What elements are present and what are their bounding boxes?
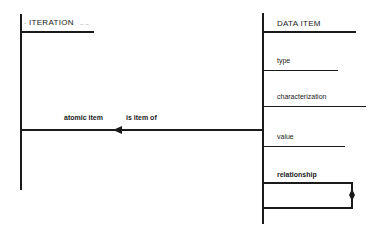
role-is-item-of-label: is item of [126,114,157,121]
connector-graphics [0,0,383,236]
role-atomic-item-label: atomic item [64,114,103,121]
arrowhead-left-icon [113,126,122,134]
relationship-diamond-icon [349,189,355,201]
